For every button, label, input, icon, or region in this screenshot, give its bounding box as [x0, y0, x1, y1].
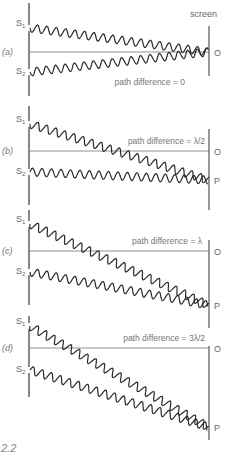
slit-s2-label: S2 — [16, 66, 26, 77]
panel-b: S1S2(b)OPpath difference = λ/2 — [2, 106, 221, 210]
wave-from-s2 — [30, 367, 207, 430]
slit-s2-label: S2 — [16, 364, 26, 375]
panel-a: S1S2(a)Opath difference = 0 — [2, 3, 221, 96]
screen-label: screen — [190, 9, 217, 19]
point-o-label: O — [214, 48, 221, 58]
slit-s1-label: S1 — [16, 114, 26, 125]
slit-s1-label: S1 — [16, 316, 26, 327]
panel-label: (c) — [2, 246, 13, 256]
path-difference-label: path difference = 3λ/2 — [123, 333, 205, 343]
panel-c: S1S2(c)OPpath difference = λ — [2, 210, 221, 328]
point-p-label: P — [214, 423, 220, 433]
figure-number: 2.2 — [0, 442, 16, 454]
slit-s1-label: S1 — [16, 214, 26, 225]
slit-s2-label: S2 — [16, 266, 26, 277]
panel-label: (d) — [2, 343, 13, 353]
double-slit-interference-diagram: screen S1S2(a)Opath difference = 0S1S2(b… — [0, 0, 225, 459]
panel-label: (b) — [2, 146, 13, 156]
path-difference-label: path difference = 0 — [115, 77, 186, 87]
wave-from-s2 — [30, 168, 208, 184]
point-o-label: O — [214, 147, 221, 157]
point-o-label: O — [214, 247, 221, 257]
slit-s1-label: S1 — [16, 18, 26, 29]
path-difference-label: path difference = λ — [132, 236, 203, 246]
wave-from-s2 — [30, 269, 208, 307]
panel-d: S1S2(d)OPpath difference = 3λ/2 — [2, 316, 221, 440]
path-difference-label: path difference = λ/2 — [128, 136, 205, 146]
point-o-label: O — [214, 344, 221, 354]
point-p-label: P — [214, 176, 220, 186]
slit-s2-label: S2 — [16, 166, 26, 177]
point-p-label: P — [214, 301, 220, 311]
wave-from-s1 — [30, 25, 208, 55]
panel-label: (a) — [2, 47, 13, 57]
